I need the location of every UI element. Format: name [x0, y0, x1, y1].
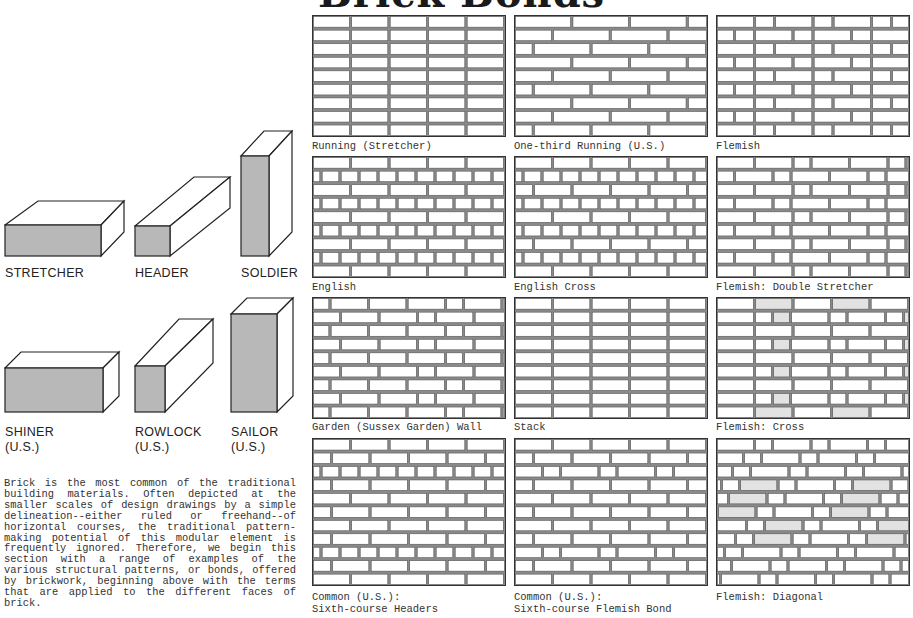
face-label-soldier: SOLDIER [241, 266, 298, 281]
bond-label-english: English [312, 281, 356, 293]
bond-label-one-third-running: One-third Running (U.S.) [514, 140, 665, 152]
face-label-sailor-sub: (U.S.) [231, 440, 279, 455]
bond-label-english-cross: English Cross [514, 281, 596, 293]
brick-pattern-drawing [514, 15, 708, 137]
brick-pattern-drawing [716, 438, 910, 586]
bond-label-stack: Stack [514, 421, 546, 433]
bond-label-common-sixth-course-headers: Common (U.S.): Sixth-course Headers [312, 591, 438, 615]
brick-pattern-drawing [312, 438, 506, 586]
bond-label-running: Running (Stretcher) [312, 140, 432, 152]
face-label-rowlock-sub: (U.S.) [135, 440, 202, 455]
intro-paragraph: Brick is the most common of the traditio… [4, 478, 296, 609]
face-label-shiner-sub: (U.S.) [5, 440, 54, 455]
bond-panel-common-sixth-course-headers [312, 438, 506, 586]
bond-label-flemish-double-stretcher: Flemish: Double Stretcher [716, 281, 874, 293]
brick-pattern-drawing [312, 156, 506, 278]
brick-pattern-drawing [514, 297, 708, 419]
bond-label-garden-wall: Garden (Sussex Garden) Wall [312, 421, 482, 433]
bond-panel-english [312, 156, 506, 278]
face-label-rowlock: ROWLOCK (U.S.) [135, 425, 202, 455]
face-label-shiner: SHINER (U.S.) [5, 425, 54, 455]
bond-label-line-2: Sixth-course Headers [312, 603, 438, 615]
brick-pattern-drawing [312, 15, 506, 137]
bond-panel-flemish-diagonal [716, 438, 910, 586]
bond-panel-flemish-double-stretcher [716, 156, 910, 278]
shiner-brick-illustration [4, 350, 121, 414]
bond-panel-garden-wall [312, 297, 506, 419]
brick-pattern-drawing [312, 297, 506, 419]
bond-panel-flemish-cross [716, 297, 910, 419]
soldier-brick-illustration [239, 129, 295, 260]
bond-label-line-1: Common (U.S.): [312, 591, 438, 603]
bond-label-flemish: Flemish [716, 140, 760, 152]
bond-panel-english-cross [514, 156, 708, 278]
bond-panel-common-sixth-course-flemish [514, 438, 708, 586]
brick-pattern-drawing [716, 15, 910, 137]
bond-panel-one-third-running [514, 15, 708, 137]
brick-pattern-drawing [514, 438, 708, 586]
face-label-stretcher: STRETCHER [5, 266, 84, 281]
brick-pattern-drawing [716, 297, 910, 419]
bond-label-line-2: Sixth-course Flemish Bond [514, 603, 672, 615]
bond-panel-running [312, 15, 506, 137]
face-label-sailor-name: SAILOR [231, 425, 279, 440]
bond-label-flemish-cross: Flemish: Cross [716, 421, 804, 433]
brick-pattern-drawing [716, 156, 910, 278]
header-brick-illustration [134, 175, 232, 260]
stretcher-brick-illustration [4, 198, 126, 260]
sailor-brick-illustration [229, 296, 295, 415]
bond-label-line-1: Common (U.S.): [514, 591, 672, 603]
bond-panel-flemish [716, 15, 910, 137]
face-label-sailor: SAILOR (U.S.) [231, 425, 279, 455]
face-label-header: HEADER [135, 266, 189, 281]
bond-label-common-sixth-course-flemish: Common (U.S.): Sixth-course Flemish Bond [514, 591, 672, 615]
bond-label-flemish-diagonal: Flemish: Diagonal [716, 591, 823, 603]
rowlock-brick-illustration [134, 317, 215, 415]
brick-pattern-drawing [514, 156, 708, 278]
face-label-rowlock-name: ROWLOCK [135, 425, 202, 440]
bond-panel-stack [514, 297, 708, 419]
face-label-shiner-name: SHINER [5, 425, 54, 440]
page-title: Brick Bonds [318, 0, 605, 13]
